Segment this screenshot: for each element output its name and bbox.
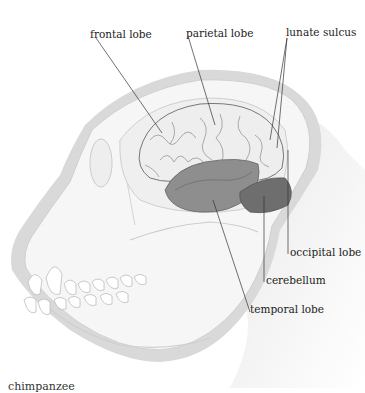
label-parietal-lobe: parietal lobe <box>186 27 253 39</box>
label-temporal-lobe: temporal lobe <box>250 303 324 315</box>
label-cerebellum: cerebellum <box>266 274 326 286</box>
label-frontal-lobe: frontal lobe <box>90 28 152 40</box>
label-lunate-sulcus: lunate sulcus <box>286 26 356 38</box>
eye-socket <box>90 139 112 187</box>
label-occipital-lobe: occipital lobe <box>290 246 361 258</box>
figure-caption: chimpanzee <box>8 381 75 393</box>
